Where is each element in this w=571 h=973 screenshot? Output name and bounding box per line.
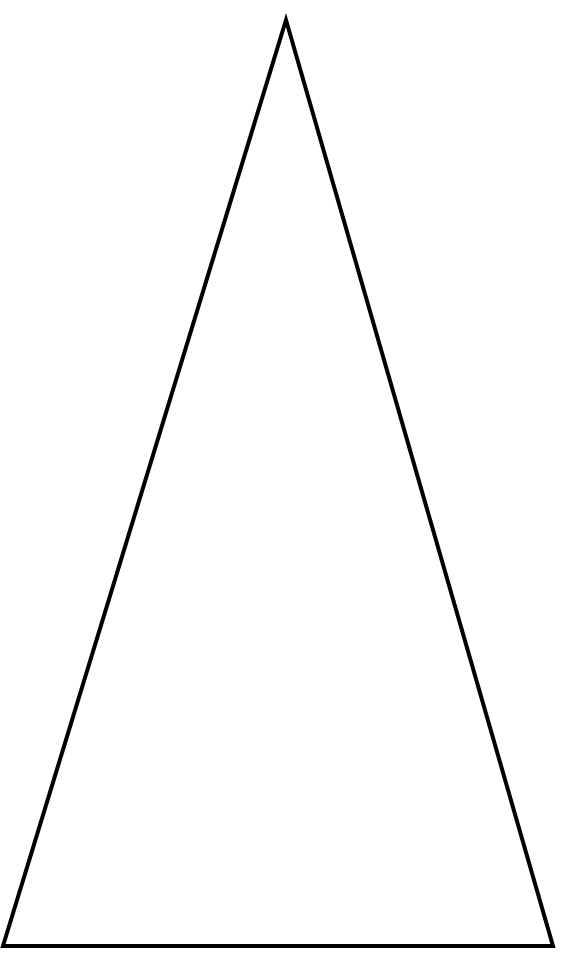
diagram-canvas: [0, 0, 571, 973]
triangle-outline: [3, 20, 553, 946]
triangle-figure: [0, 0, 571, 973]
